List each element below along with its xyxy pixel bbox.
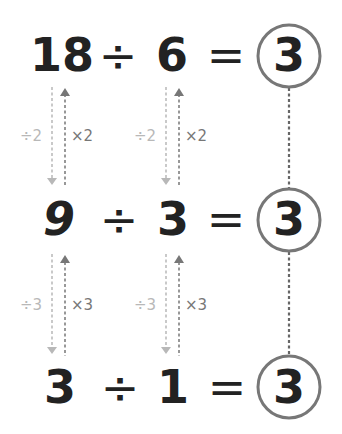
divisor-multiply-label: ×2 <box>185 128 207 144</box>
dashed-up-arrow-icon <box>174 255 184 356</box>
divide-sign: ÷ <box>98 364 142 410</box>
dividend-divide-label: ÷2 <box>20 128 42 144</box>
divisor: 6 <box>150 32 194 78</box>
divisor-divide-label: ÷2 <box>134 128 156 144</box>
dividend: 3 <box>38 364 82 410</box>
dividend-divide-label: ÷3 <box>20 297 42 313</box>
quotient: 3 <box>259 364 319 410</box>
equals-sign: = <box>205 364 249 410</box>
divisor: 3 <box>151 196 195 242</box>
dashed-down-arrow-icon <box>47 87 57 185</box>
equals-sign: = <box>204 32 248 78</box>
dashed-down-arrow-icon <box>47 254 57 354</box>
dividend: 9 <box>37 196 81 242</box>
dashed-up-arrow-icon <box>60 255 70 356</box>
quotient: 3 <box>259 196 319 242</box>
divisor-divide-label: ÷3 <box>134 297 156 313</box>
divide-sign: ÷ <box>97 196 141 242</box>
dashed-up-arrow-icon <box>60 88 70 187</box>
quotient-invariance-diagram: 18 ÷ 6 = 3 ÷2 ×2 ÷2 ×2 9 ÷ 3 = 3 ÷3 ×3 ÷… <box>0 0 342 434</box>
divisor: 1 <box>151 364 195 410</box>
dashed-up-arrow-icon <box>174 88 184 187</box>
quotient: 3 <box>259 32 319 78</box>
dashed-down-arrow-icon <box>161 254 171 354</box>
divide-sign: ÷ <box>96 32 140 78</box>
dividend-multiply-label: ×2 <box>71 128 93 144</box>
equals-sign: = <box>204 196 248 242</box>
dividend-multiply-label: ×3 <box>71 297 93 313</box>
dividend: 18 <box>30 32 94 78</box>
divisor-multiply-label: ×3 <box>185 297 207 313</box>
dashed-down-arrow-icon <box>161 87 171 185</box>
